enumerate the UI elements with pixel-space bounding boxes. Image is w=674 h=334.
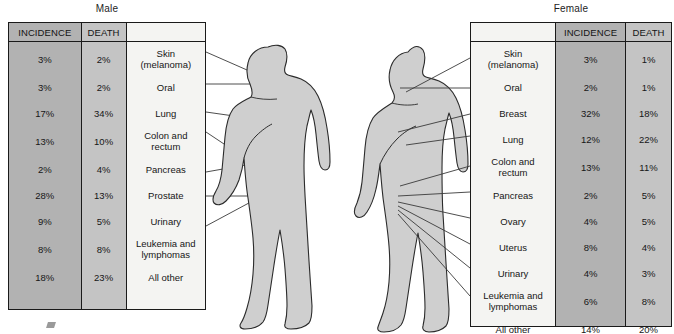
table-cell: All other (471, 316, 555, 334)
female-site-column: Skin (melanoma) Oral Breast Lung Colon a… (471, 23, 555, 326)
table-cell: Pancreas (471, 182, 555, 208)
table-cell: Colon and rectum (127, 126, 205, 156)
female-death-header: DEATH (626, 23, 671, 42)
table-cell: Oral (471, 74, 555, 100)
table-cell: 2% (556, 182, 625, 208)
table-cell: 3% (9, 74, 81, 100)
table-cell: Breast (471, 100, 555, 126)
table-cell: 8% (626, 286, 671, 316)
female-panel-title: Female (470, 3, 672, 14)
table-cell: 4% (626, 234, 671, 260)
male-incidence-header: INCIDENCE (9, 23, 81, 42)
table-cell: Uterus (471, 234, 555, 260)
table-cell: 18% (9, 264, 81, 290)
table-cell: 4% (556, 208, 625, 234)
male-panel-title: Male (8, 3, 206, 14)
table-cell: 12% (556, 126, 625, 152)
table-cell: 22% (626, 126, 671, 152)
male-leader-lines (206, 52, 290, 226)
table-cell: Leukemia and lymphomas (471, 286, 555, 316)
table-cell: 11% (626, 152, 671, 182)
table-cell: Lung (127, 100, 205, 126)
table-cell: 5% (82, 208, 126, 234)
male-body-silhouette (213, 45, 330, 329)
female-incidence-column: INCIDENCE 3% 2% 32% 12% 13% 2% 4% 8% 4% … (555, 23, 625, 326)
female-incidence-header: INCIDENCE (556, 23, 625, 42)
table-cell: Oral (127, 74, 205, 100)
table-cell: Lung (471, 126, 555, 152)
male-site-header (127, 23, 205, 42)
table-cell: 5% (626, 182, 671, 208)
female-body-silhouette (354, 46, 468, 332)
table-cell: 3% (9, 44, 81, 74)
table-cell: Prostate (127, 182, 205, 208)
table-cell: 34% (82, 100, 126, 126)
table-cell: 2% (556, 74, 625, 100)
table-cell: Skin (melanoma) (127, 44, 205, 74)
table-cell: 9% (9, 208, 81, 234)
table-cell: Ovary (471, 208, 555, 234)
female-site-header (471, 23, 555, 42)
table-cell: Urinary (471, 260, 555, 286)
table-cell: 28% (9, 182, 81, 208)
table-cell: 8% (9, 234, 81, 264)
table-cell: Colon and rectum (471, 152, 555, 182)
table-cell: 23% (82, 264, 126, 290)
table-cell: 2% (9, 156, 81, 182)
table-cell: 17% (9, 100, 81, 126)
table-cell: 4% (556, 260, 625, 286)
table-cell: 1% (626, 44, 671, 74)
table-cell: Urinary (127, 208, 205, 234)
table-cell: 4% (82, 156, 126, 182)
table-cell: Pancreas (127, 156, 205, 182)
table-cell: 3% (626, 260, 671, 286)
male-site-column: Skin (melanoma) Oral Lung Colon and rect… (126, 23, 205, 309)
table-cell: 20% (626, 316, 671, 334)
table-cell: 13% (82, 182, 126, 208)
male-death-column: DEATH 2% 2% 34% 10% 4% 13% 5% 8% 23% (81, 23, 126, 309)
table-cell: 2% (82, 44, 126, 74)
table-cell: Leukemia and lymphomas (127, 234, 205, 264)
table-cell: Skin (melanoma) (471, 44, 555, 74)
column-filler (82, 290, 126, 309)
table-cell: 8% (556, 234, 625, 260)
column-filler (9, 290, 81, 309)
male-incidence-column: INCIDENCE 3% 3% 17% 13% 2% 28% 9% 8% 18% (9, 23, 81, 309)
table-cell: 32% (556, 100, 625, 126)
table-cell: 6% (556, 286, 625, 316)
corner-artifact-mark (46, 322, 56, 328)
table-cell: 1% (626, 74, 671, 100)
table-cell: 2% (82, 74, 126, 100)
table-cell: 18% (626, 100, 671, 126)
female-death-column: DEATH 1% 1% 18% 22% 11% 5% 5% 4% 3% 8% 2… (625, 23, 671, 326)
table-cell: 13% (556, 152, 625, 182)
table-cell: 14% (556, 316, 625, 334)
female-leader-lines (398, 58, 470, 296)
table-cell: All other (127, 264, 205, 290)
column-filler (127, 290, 205, 309)
cancer-statistics-figure: Male Female INCIDENCE 3% 3% 17% 13% 2% 2… (0, 0, 674, 334)
table-cell: 3% (556, 44, 625, 74)
female-data-table: Skin (melanoma) Oral Breast Lung Colon a… (470, 22, 672, 327)
table-cell: 13% (9, 126, 81, 156)
table-cell: 10% (82, 126, 126, 156)
male-data-table: INCIDENCE 3% 3% 17% 13% 2% 28% 9% 8% 18%… (8, 22, 206, 310)
table-cell: 5% (626, 208, 671, 234)
table-cell: 8% (82, 234, 126, 264)
male-death-header: DEATH (82, 23, 126, 42)
